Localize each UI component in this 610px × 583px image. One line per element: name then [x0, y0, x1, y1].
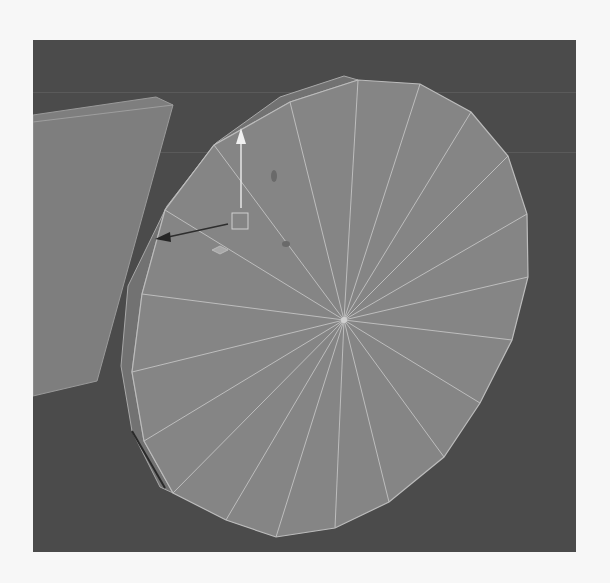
3d-viewport[interactable]	[33, 40, 576, 552]
scene-canvas[interactable]	[33, 40, 576, 552]
surface-mark	[271, 170, 277, 182]
disc-cylinder[interactable]	[132, 80, 528, 537]
surface-mark	[282, 241, 290, 247]
disc-center-vertex	[341, 317, 347, 323]
